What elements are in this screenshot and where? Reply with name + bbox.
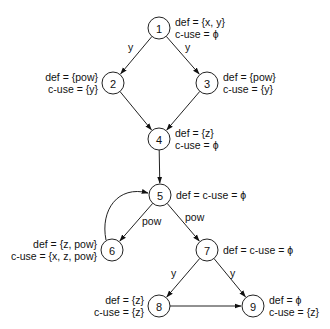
node-1-def: def = {x, y}	[175, 16, 225, 28]
node-6-cuse: c-use = {x, z, pow}	[11, 250, 98, 262]
node-6: 6	[101, 239, 123, 261]
control-flow-graph: yypowpowyy 123456789 def = {x, y}c-use =…	[0, 0, 330, 329]
node-id-label: 3	[204, 78, 210, 90]
node-5-def: def = c-use = ϕ	[176, 189, 246, 201]
node-2-def: def = {pow}	[45, 71, 98, 83]
edge-label-1-2: y	[128, 41, 134, 53]
node-id-label: 4	[156, 134, 162, 146]
edge-labels-layer: yypowpowyy	[128, 41, 236, 279]
edge-label-7-9: y	[230, 267, 236, 279]
node-id-label: 7	[204, 245, 210, 257]
nodes-layer: 123456789	[101, 17, 264, 317]
node-2-cuse: c-use = {y}	[48, 83, 98, 95]
edge-1-3	[166, 36, 199, 74]
node-id-label: 1	[156, 23, 162, 35]
node-id-label: 5	[157, 190, 163, 202]
node-3-def: def = {pow}	[223, 71, 276, 83]
node-3: 3	[196, 72, 218, 94]
node-3-cuse: c-use = {y}	[223, 83, 273, 95]
node-4: 4	[148, 128, 170, 150]
node-8-def: def = {z}	[105, 294, 144, 306]
edge-label-5-7: pow	[185, 211, 205, 223]
edge-label-5-6: pow	[142, 215, 162, 227]
node-6-def: def = {z, pow}	[33, 238, 97, 250]
edge-label-7-8: y	[171, 267, 177, 279]
node-7: 7	[196, 239, 218, 261]
node-2: 2	[102, 72, 124, 94]
edge-1-2	[121, 36, 152, 73]
annotations-layer: def = {x, y}c-use = ϕdef = {pow}c-use = …	[11, 16, 319, 318]
edge-4-5	[159, 150, 160, 183]
edge-3-4	[167, 91, 200, 130]
node-8-cuse: c-use = {z}	[94, 306, 144, 318]
node-1: 1	[148, 17, 170, 39]
node-9: 9	[242, 295, 264, 317]
node-9-cuse: c-use = {z}	[269, 306, 319, 318]
node-7-def: def = c-use = ϕ	[223, 244, 293, 256]
node-9-def: def = ϕ	[269, 294, 302, 306]
node-4-def: def = {z}	[175, 127, 214, 139]
edge-2-4	[120, 91, 151, 129]
node-id-label: 8	[156, 301, 162, 313]
node-id-label: 6	[109, 245, 115, 257]
node-1-cuse: c-use = ϕ	[175, 28, 219, 40]
node-id-label: 9	[250, 301, 256, 313]
node-4-cuse: c-use = ϕ	[175, 139, 219, 151]
edge-label-1-3: y	[185, 41, 191, 53]
node-8: 8	[148, 295, 170, 317]
node-id-label: 2	[110, 78, 116, 90]
node-5: 5	[149, 184, 171, 206]
